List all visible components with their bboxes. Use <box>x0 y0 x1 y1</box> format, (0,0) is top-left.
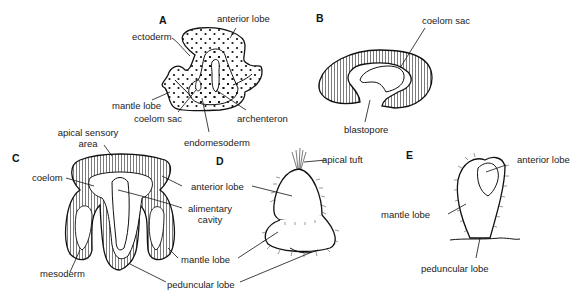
label-a-endomesoderm: endomesoderm <box>184 138 250 148</box>
label-d-apical-tuft: apical tuft <box>322 155 363 165</box>
label-b-coelom-sac: coelom sac <box>422 16 470 26</box>
label-a-coelom-sac: coelom sac <box>134 114 182 124</box>
panel-c-drawing <box>66 145 182 282</box>
label-a-mantle-lobe: mantle lobe <box>112 101 161 111</box>
label-e-peduncular-lobe: peduncular lobe <box>421 264 489 274</box>
label-a-archenteron: archenteron <box>237 114 288 124</box>
panel-a-letter: A <box>159 15 167 26</box>
panel-c-letter: C <box>12 153 20 164</box>
label-c-mesoderm: mesoderm <box>40 269 85 279</box>
label-c-mantle-lobe: mantle lobe <box>181 255 230 265</box>
label-e-anterior-lobe: anterior lobe <box>517 155 570 165</box>
label-c-alimentary-cavity: cavity <box>180 215 240 225</box>
panel-b-drawing <box>319 28 432 122</box>
label-c-peduncular-lobe: peduncular lobe <box>167 280 235 290</box>
panel-b-letter: B <box>316 13 324 24</box>
panel-d-letter: D <box>216 156 224 167</box>
label-c-anterior-lobe: anterior lobe <box>191 182 244 192</box>
label-e-mantle-lobe: mantle lobe <box>381 210 430 220</box>
label-b-blastopore: blastopore <box>344 125 388 135</box>
label-c-alimentary: alimentary <box>180 204 240 214</box>
label-c-coelom: coelom <box>32 173 63 183</box>
label-c-apical-sensory: apical sensory <box>55 128 121 138</box>
label-c-apical-sensory-area: area <box>55 139 121 149</box>
panel-e-letter: E <box>406 150 413 161</box>
label-a-ectoderm: ectoderm <box>132 32 172 42</box>
label-a-anterior-lobe: anterior lobe <box>217 14 270 24</box>
panel-e-drawing <box>448 153 520 258</box>
panel-d-drawing <box>238 148 339 282</box>
